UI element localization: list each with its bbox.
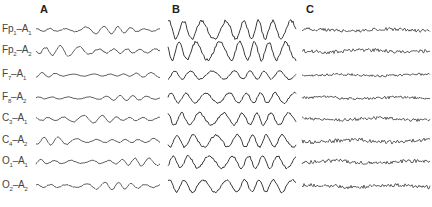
eeg-trace-c-3 [302, 96, 430, 100]
eeg-trace-b-2 [168, 70, 296, 79]
eeg-trace-b-6 [168, 155, 296, 169]
eeg-trace-b-1 [168, 41, 296, 61]
eeg-trace-b-7 [168, 179, 296, 193]
eeg-trace-c-0 [302, 28, 430, 33]
eeg-trace-b-0 [168, 20, 296, 40]
eeg-trace-c-5 [302, 138, 430, 144]
eeg-trace-a-7 [36, 182, 160, 190]
eeg-trace-c-6 [302, 159, 430, 164]
eeg-trace-a-6 [36, 158, 160, 166]
eeg-trace-c-7 [302, 184, 430, 189]
eeg-trace-a-1 [36, 45, 160, 56]
eeg-trace-a-3 [36, 95, 160, 100]
eeg-trace-a-4 [36, 115, 160, 123]
eeg-trace-b-4 [168, 112, 296, 126]
eeg-trace-c-4 [302, 117, 430, 122]
eeg-trace-c-2 [302, 73, 430, 77]
eeg-traces [0, 0, 432, 207]
eeg-trace-a-0 [36, 26, 160, 34]
eeg-trace-c-1 [302, 48, 430, 53]
eeg-trace-b-3 [168, 92, 296, 103]
eeg-trace-a-5 [36, 137, 160, 146]
eeg-trace-a-2 [36, 72, 160, 77]
eeg-trace-b-5 [168, 134, 296, 148]
